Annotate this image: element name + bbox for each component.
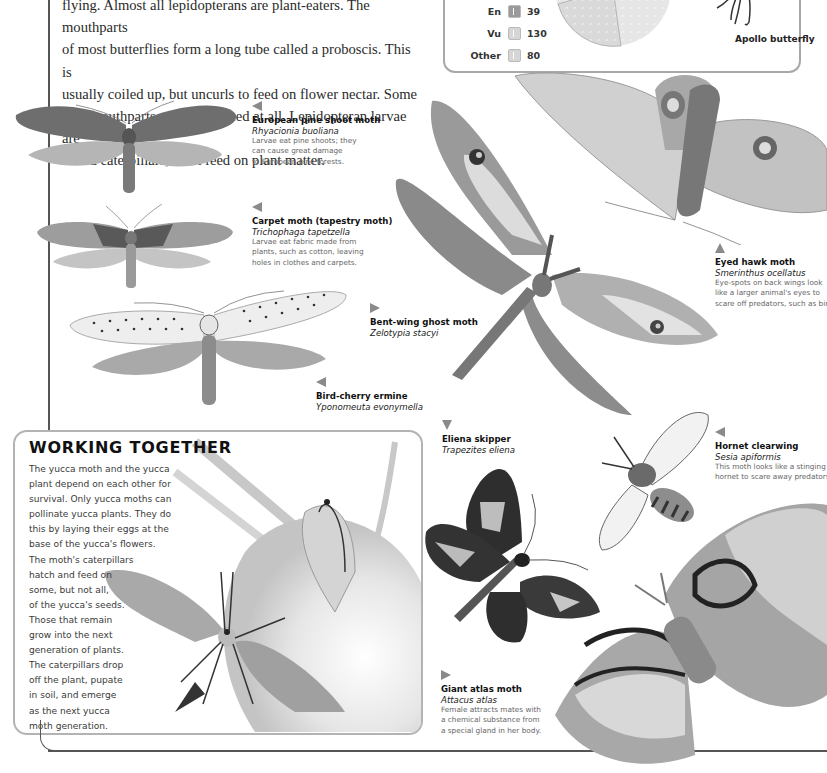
body-line: in soil, and emerge	[29, 688, 169, 703]
body-line: The caterpillars drop	[29, 658, 169, 673]
desc-line: holes in clothes and carpets.	[252, 258, 392, 268]
arrow-left-icon	[316, 377, 326, 387]
species-name: Eliena skipper	[442, 434, 515, 445]
desc-line: plants, such as cotton, leaving	[252, 247, 392, 257]
body-line: as the next yucca	[29, 704, 169, 719]
intro-line: of most butterflies form a long tube cal…	[62, 38, 422, 82]
body-line: Those that remain	[29, 613, 169, 628]
species-latin: Trichophaga tapetzella	[252, 227, 392, 238]
apollo-caption: Apollo butterfly	[735, 34, 815, 44]
desc-line: This moth looks like a stinging	[715, 462, 827, 472]
arrow-down-icon	[442, 420, 452, 430]
species-latin: Trapezites eliena	[442, 445, 515, 456]
legend-label: En	[453, 6, 501, 17]
species-desc: Eye-spots on back wings look like a larg…	[715, 278, 827, 309]
working-together-box: WORKING TOGETHER The yucca moth and the …	[13, 430, 423, 735]
species-name: Giant atlas moth	[441, 684, 541, 695]
giant-atlas-moth-illustration	[545, 495, 827, 773]
body-line: grow into the next	[29, 628, 169, 643]
body-line: The moth's caterpillars	[29, 553, 169, 568]
arrow-right-icon	[370, 303, 380, 313]
caption-giant-atlas-moth: Giant atlas moth Attacus atlas Female at…	[441, 670, 541, 736]
arrow-left-icon	[252, 202, 262, 212]
caption-hornet-clearwing: Hornet clearwing Sesia apiformis This mo…	[715, 427, 827, 483]
body-line: plant depend on each other for	[29, 477, 169, 492]
species-latin: Attacus atlas	[441, 695, 541, 706]
desc-line: Larvae eat pine shoots; they	[252, 136, 380, 146]
desc-line: Eye-spots on back wings look	[715, 278, 827, 288]
body-line: some, but not all,	[29, 583, 169, 598]
caption-bent-wing-ghost-moth: Bent-wing ghost moth Zelotypia stacyi	[370, 303, 478, 338]
arrow-left-icon	[252, 101, 262, 111]
desc-line: a special gland in her body.	[441, 726, 541, 736]
working-together-title: WORKING TOGETHER	[29, 438, 232, 457]
species-name: Eyed hawk moth	[715, 257, 827, 268]
caption-bird-cherry-ermine: Bird-cherry ermine Yponomeuta evonymella	[316, 377, 423, 412]
desc-line: Female attracts mates with	[441, 705, 541, 715]
pie-chart	[555, 0, 675, 50]
caption-carpet-moth: Carpet moth (tapestry moth) Trichophaga …	[252, 202, 392, 268]
stats-box: En 39 Vu 130 Other 80	[443, 0, 801, 73]
species-desc: Female attracts mates with a chemical su…	[441, 705, 541, 736]
apollo-butterfly-illustration	[675, 0, 795, 58]
legend-row-vu: Vu 130	[445, 22, 555, 44]
legend-row-en: En 39	[445, 0, 555, 22]
body-line: this by laying their eggs at the	[29, 522, 169, 537]
body-line: base of the yucca's flowers.	[29, 537, 169, 552]
desc-line: can cause great damage	[252, 146, 380, 156]
body-line: The yucca moth and the yucca	[29, 462, 169, 477]
legend-label: Vu	[453, 28, 501, 39]
pine-shoot-moth-illustration	[8, 95, 240, 205]
caption-eliena-skipper: Eliena skipper Trapezites eliena	[442, 420, 515, 455]
intro-line: flying. Almost all lepidopterans are pla…	[62, 0, 422, 38]
legend-value: 80	[527, 50, 555, 61]
butterfly-silhouette-icon	[508, 27, 521, 40]
body-line: generation of plants.	[29, 643, 169, 658]
arrow-left-icon	[715, 427, 725, 437]
legend-row-other: Other 80	[445, 44, 555, 66]
caption-eyed-hawk-moth: Eyed hawk moth Smerinthus ocellatus Eye-…	[715, 243, 827, 309]
body-line: hatch and feed on	[29, 568, 169, 583]
species-latin: Sesia apiformis	[715, 452, 827, 463]
body-line: survival. Only yucca moths can	[29, 492, 169, 507]
body-line: pollinate yucca plants. They do	[29, 507, 169, 522]
species-name: Carpet moth (tapestry moth)	[252, 216, 392, 227]
arrow-up-icon	[715, 243, 725, 253]
species-name: Bent-wing ghost moth	[370, 317, 478, 328]
legend-value: 130	[527, 28, 555, 39]
bird-cherry-ermine-illustration	[64, 285, 349, 420]
butterfly-silhouette-icon	[508, 5, 521, 18]
legend-value: 39	[527, 6, 555, 17]
body-line: off the plant, pupate	[29, 673, 169, 688]
desc-line: scare off predators, such as birds.	[715, 299, 827, 309]
species-desc: Larvae eat pine shoots; they can cause g…	[252, 136, 380, 167]
body-line: of the yucca's seeds.	[29, 598, 169, 613]
species-desc: This moth looks like a stinging hornet t…	[715, 462, 827, 483]
species-latin: Rhyacionia buoliana	[252, 126, 380, 137]
eyed-hawk-moth-illustration	[515, 70, 827, 245]
page-rule-corner	[40, 720, 70, 751]
arrow-right-icon	[441, 670, 451, 680]
butterfly-silhouette-icon	[508, 49, 521, 62]
species-name: European pine shoot moth	[252, 115, 380, 126]
species-latin: Smerinthus ocellatus	[715, 268, 827, 279]
desc-line: a chemical substance from	[441, 715, 541, 725]
species-latin: Yponomeuta evonymella	[316, 402, 423, 413]
desc-line: hornet to scare away predators.	[715, 472, 827, 482]
desc-line: like a larger animal's eyes to	[715, 288, 827, 298]
caption-pine-shoot-moth: European pine shoot moth Rhyacionia buol…	[252, 101, 380, 167]
legend-label: Other	[453, 50, 501, 61]
working-together-body: The yucca moth and the yucca plant depen…	[29, 462, 169, 734]
species-desc: Larvae eat fabric made from plants, such…	[252, 237, 392, 268]
desc-line: Larvae eat fabric made from	[252, 237, 392, 247]
species-name: Hornet clearwing	[715, 441, 827, 452]
legend: En 39 Vu 130 Other 80	[445, 0, 555, 66]
species-name: Bird-cherry ermine	[316, 391, 423, 402]
desc-line: to European pine forests.	[252, 157, 380, 167]
species-latin: Zelotypia stacyi	[370, 328, 478, 339]
